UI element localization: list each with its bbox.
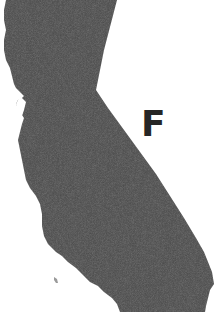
california-silhouette (0, 0, 221, 312)
state-label: F (141, 104, 166, 144)
island-speck (54, 277, 58, 283)
state-shape (4, 0, 214, 312)
